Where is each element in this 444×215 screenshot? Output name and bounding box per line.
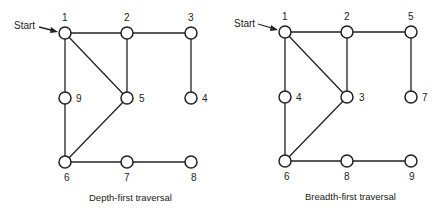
node (185, 156, 197, 168)
node-label: 7 (124, 172, 130, 183)
node-label: 1 (282, 11, 288, 22)
arrowhead-icon (270, 25, 278, 31)
node-label: 6 (284, 171, 290, 182)
node (279, 26, 291, 38)
node-label: 3 (359, 92, 365, 103)
arrowhead-icon (50, 27, 58, 33)
node-label: 6 (64, 172, 70, 183)
node-label: 5 (139, 93, 145, 104)
node (121, 27, 133, 39)
node-label: 4 (296, 92, 302, 103)
node (279, 91, 291, 103)
edge (65, 33, 127, 98)
node (405, 26, 417, 38)
edge (65, 98, 127, 162)
node-label: 7 (422, 92, 428, 103)
node-label: 8 (191, 172, 197, 183)
node-label: 9 (76, 93, 82, 104)
node-label: 2 (344, 11, 350, 22)
caption: Breadth-first traversal (305, 191, 396, 202)
node (341, 91, 353, 103)
node-label: 5 (408, 11, 414, 22)
node (405, 91, 417, 103)
node (59, 156, 71, 168)
node (59, 27, 71, 39)
edge (285, 32, 347, 97)
node-label: 8 (344, 171, 350, 182)
node-label: 1 (62, 12, 68, 23)
start-label: Start (234, 18, 255, 29)
node-label: 4 (202, 93, 208, 104)
node-label: 3 (188, 12, 194, 23)
breadth-first-graph: Start 1 2 5 4 3 7 6 8 9 Breadth-first tr… (234, 11, 428, 202)
node (341, 155, 353, 167)
node-label: 9 (409, 171, 415, 182)
traversal-diagrams: Start 1 2 3 9 5 4 6 7 8 Depth-first trav… (0, 0, 444, 215)
node (121, 156, 133, 168)
start-label: Start (14, 20, 35, 31)
node (341, 26, 353, 38)
node (121, 92, 133, 104)
node (185, 27, 197, 39)
node (185, 92, 197, 104)
node (279, 155, 291, 167)
caption: Depth-first traversal (89, 192, 172, 203)
node (59, 92, 71, 104)
depth-first-graph: Start 1 2 3 9 5 4 6 7 8 Depth-first trav… (14, 12, 208, 203)
node (405, 155, 417, 167)
edge (285, 97, 347, 161)
node-label: 2 (124, 12, 130, 23)
